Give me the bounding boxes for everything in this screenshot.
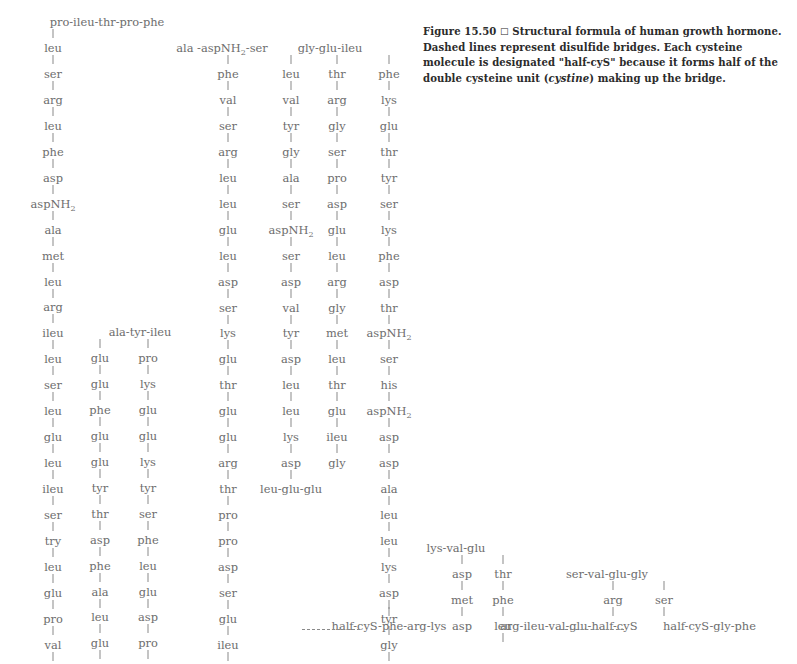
peptide-bond	[53, 133, 54, 142]
residue-c6-2: gly	[328, 121, 345, 132]
residue-c5-12: leu	[282, 380, 300, 391]
peptide-bond	[53, 626, 54, 635]
peptide-bond	[337, 263, 338, 272]
residue-c1-10: arg	[43, 302, 63, 313]
peptide-bond	[100, 521, 101, 530]
peptide-bond	[337, 366, 338, 375]
residue-c4-14: glu	[219, 432, 237, 443]
peptide-bond	[148, 339, 149, 348]
residue-c4-21: glu	[219, 614, 237, 625]
peptide-bond	[100, 469, 101, 478]
residue-c5-8: asp	[281, 277, 301, 288]
peptide-bond	[228, 81, 229, 90]
peptide-bond	[53, 366, 54, 375]
peptide-bond	[389, 107, 390, 116]
residue-c1-12: leu	[44, 354, 62, 365]
peptide-bond	[228, 496, 229, 505]
peptide-bond	[389, 133, 390, 142]
residue-c4-20: ser	[219, 588, 237, 599]
residue-c6-13: glu	[328, 406, 346, 417]
residue-c7-6: lys	[381, 225, 397, 236]
peptide-bond	[337, 418, 338, 427]
residue-c6-5: asp	[327, 199, 347, 210]
residue-c1-9: leu	[44, 277, 62, 288]
residue-c7-9: thr	[380, 303, 397, 314]
peptide-bond	[462, 581, 463, 590]
peptide-bond	[503, 581, 504, 590]
residue-c4-19: asp	[218, 562, 238, 573]
peptide-bond	[100, 573, 101, 582]
residue-c1-23: val	[45, 640, 62, 651]
residue-c4-18: pro	[218, 536, 238, 547]
peptide-bond	[53, 289, 54, 298]
residue-c1-8: met	[42, 251, 64, 262]
peptide-bond	[228, 522, 229, 531]
peptide-bond	[291, 470, 292, 479]
residue-c1-4: phe	[42, 147, 63, 158]
residue-c1-20: leu	[44, 562, 62, 573]
residue-c7-17: leu	[380, 510, 398, 521]
residue-c4-0: phe	[217, 69, 238, 80]
peptide-bond	[389, 81, 390, 90]
residue-c3-4: lys	[140, 457, 156, 468]
peptide-bond	[228, 315, 229, 324]
peptide-bond	[228, 444, 229, 453]
peptide-bond	[291, 289, 292, 298]
residue-c3-3: glu	[139, 431, 157, 442]
residue-c7-12: his	[381, 380, 398, 391]
chain-header-lys-val-glu: lys-val-glu	[427, 543, 486, 554]
residue-c5-13: leu	[282, 406, 300, 417]
peptide-bond	[100, 339, 101, 348]
residue-c6-11: leu	[328, 354, 346, 365]
peptide-bond	[664, 581, 665, 590]
residue-c5-14: lys	[283, 432, 299, 443]
residue-c1-11: ileu	[42, 328, 63, 339]
residue-c6-12: thr	[328, 380, 345, 391]
peptide-bond	[53, 444, 54, 453]
peptide-bond	[100, 650, 101, 659]
peptide-bond	[664, 607, 665, 616]
peptide-bond	[148, 443, 149, 452]
peptide-bond	[291, 81, 292, 90]
residue-c6-6: glu	[328, 225, 346, 236]
peptide-bond	[228, 574, 229, 583]
peptide-bond	[503, 633, 504, 642]
residue-c1-1: ser	[44, 69, 62, 80]
chain-header-ala-aspnh2-ser: ala -aspNH2-ser	[176, 43, 268, 54]
peptide-bond	[337, 133, 338, 142]
residue-c4-2: ser	[219, 121, 237, 132]
residue-c4-9: ser	[219, 303, 237, 314]
peptide-bond	[148, 599, 149, 608]
residue-c5-1: val	[283, 95, 300, 106]
residue-c7-4: tyr	[381, 173, 397, 184]
peptide-bond	[53, 107, 54, 116]
residue-c3-0: pro	[138, 353, 158, 364]
residue-c7-14: asp	[379, 432, 399, 443]
residue-c5-4: ala	[282, 173, 299, 184]
chain-header-ala-tyr-ileu: ala-tyr-ileu	[109, 327, 172, 338]
peptide-bond	[291, 315, 292, 324]
chain-footer-leu-glu-glu: leu-glu-glu	[260, 484, 322, 495]
peptide-bond	[389, 159, 390, 168]
caption-body-2: ) making up the bridge.	[589, 73, 726, 84]
residue-c4-7: leu	[219, 251, 237, 262]
peptide-bond	[228, 159, 229, 168]
peptide-bond	[148, 495, 149, 504]
peptide-bond	[613, 581, 614, 590]
peptide-bond	[291, 340, 292, 349]
peptide-bond	[228, 237, 229, 246]
peptide-bond	[53, 600, 54, 609]
residue-c2-0: glu	[91, 353, 109, 364]
peptide-bond	[337, 392, 338, 401]
peptide-bond	[228, 418, 229, 427]
residue-c3-5: tyr	[140, 483, 156, 494]
peptide-bond	[53, 185, 54, 194]
peptide-bond	[337, 55, 338, 64]
residue-c5-5: ser	[282, 199, 300, 210]
peptide-bond	[228, 392, 229, 401]
peptide-bond	[389, 237, 390, 246]
residue-c8-1: met	[451, 595, 473, 606]
residue-c9-1: phe	[492, 595, 513, 606]
peptide-bond	[53, 418, 54, 427]
residue-c7-2: glu	[380, 121, 398, 132]
